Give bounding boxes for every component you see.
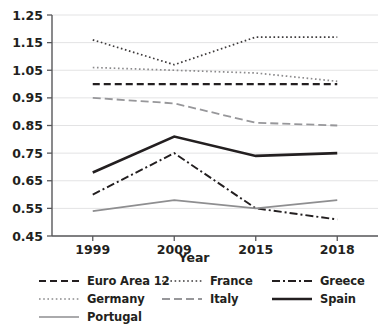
y-axis-ticks: [47, 15, 52, 236]
y-tick-labels: 0.450.550.650.750.850.951.051.151.25: [12, 8, 43, 244]
legend-label: Germany: [87, 292, 145, 306]
legend-item-portugal[interactable]: Portugal: [38, 308, 161, 326]
legend-label: Portugal: [87, 310, 142, 324]
line-chart: 0.450.550.650.750.850.951.051.151.25 199…: [0, 0, 388, 268]
chart-legend: Euro Area 12FranceGreeceGermanyItalySpai…: [38, 272, 386, 330]
legend-swatch-italy: [161, 293, 203, 305]
series-line-france: [93, 37, 338, 65]
legend-label: Spain: [320, 292, 356, 306]
legend-item-germany[interactable]: Germany: [38, 290, 161, 308]
legend-swatch-germany: [38, 293, 80, 305]
legend-label: Italy: [210, 292, 238, 306]
x-axis-ticks: [93, 236, 338, 241]
legend-swatch-greece: [271, 275, 313, 287]
series-line-italy: [93, 98, 338, 126]
y-tick-label: 1.05: [12, 63, 43, 78]
legend-swatch-portugal: [38, 311, 80, 323]
y-tick-label: 1.25: [12, 8, 43, 23]
series-line-greece: [93, 153, 338, 219]
legend-swatch-spain: [271, 293, 313, 305]
legend-item-euro-area-12[interactable]: Euro Area 12: [38, 272, 161, 290]
legend-item-france[interactable]: France: [161, 272, 271, 290]
plot-area: 0.450.550.650.750.850.951.051.151.25 199…: [0, 0, 388, 268]
y-tick-label: 0.75: [12, 146, 43, 161]
grid-lines: [52, 15, 378, 236]
y-tick-label: 0.55: [12, 201, 43, 216]
y-tick-label: 0.95: [12, 90, 43, 105]
legend-row: Portugal: [38, 308, 386, 326]
legend-label: Greece: [320, 274, 365, 288]
x-tick-label: 2015: [238, 242, 273, 257]
x-tick-label: 1999: [75, 242, 110, 257]
y-tick-label: 0.85: [12, 118, 43, 133]
x-tick-labels: 1999200920152018: [75, 242, 354, 257]
y-tick-label: 1.15: [12, 35, 43, 50]
legend-label: France: [210, 274, 253, 288]
y-tick-label: 0.65: [12, 173, 43, 188]
series-line-spain: [93, 137, 338, 173]
legend-swatch-euro-area-12: [38, 275, 80, 287]
legend-row: Euro Area 12FranceGreece: [38, 272, 386, 290]
legend-item-greece[interactable]: Greece: [271, 272, 383, 290]
series-line-germany: [93, 67, 338, 81]
x-axis-title: Year: [178, 250, 211, 265]
chart-figure: 0.450.550.650.750.850.951.051.151.25 199…: [0, 0, 388, 331]
series-lines: [93, 37, 338, 219]
legend-item-spain[interactable]: Spain: [271, 290, 383, 308]
y-tick-label: 0.45: [12, 229, 43, 244]
legend-row: GermanyItalySpain: [38, 290, 386, 308]
legend-swatch-france: [161, 275, 203, 287]
legend-label: Euro Area 12: [87, 274, 170, 288]
series-line-portugal: [93, 200, 338, 211]
legend-item-italy[interactable]: Italy: [161, 290, 271, 308]
x-tick-label: 2018: [320, 242, 355, 257]
